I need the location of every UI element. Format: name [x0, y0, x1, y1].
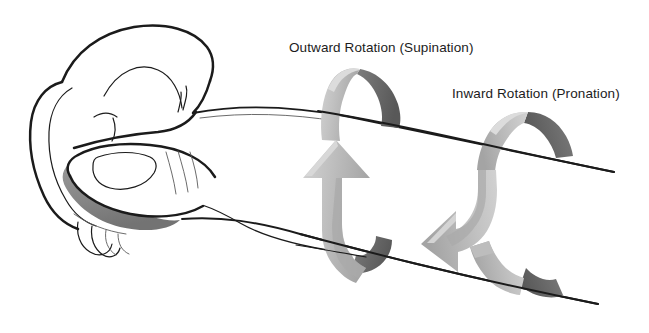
diagram-canvas: Outward Rotation (Supination) Inward Rot… [0, 0, 649, 333]
forearm-rotation-diagram: Outward Rotation (Supination) Inward Rot… [0, 0, 649, 333]
label-supination: Outward Rotation (Supination) [289, 40, 474, 55]
label-pronation: Inward Rotation (Pronation) [452, 86, 620, 101]
